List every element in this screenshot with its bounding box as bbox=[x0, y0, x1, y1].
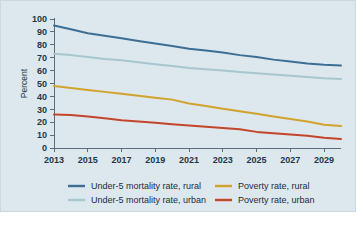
legend-label: Under-5 mortality rate, urban bbox=[91, 195, 206, 205]
y-tick-label: 100 bbox=[32, 14, 47, 24]
y-tick-labels: 0102030405060708090100 bbox=[32, 14, 47, 153]
x-tick-label: 2013 bbox=[44, 155, 64, 165]
y-tick-label: 30 bbox=[37, 105, 47, 115]
x-tick-marks bbox=[54, 148, 324, 152]
series-line bbox=[54, 54, 341, 79]
x-tick-label: 2023 bbox=[213, 155, 233, 165]
series-lines bbox=[54, 25, 341, 139]
y-tick-label: 70 bbox=[37, 53, 47, 63]
legend-label: Under-5 mortality rate, rural bbox=[91, 181, 201, 191]
x-tick-labels: 201320152017201920212023202520272029 bbox=[44, 155, 334, 165]
legend-label: Poverty rate, rural bbox=[238, 181, 310, 191]
y-axis-group: 0102030405060708090100 Percent bbox=[19, 14, 54, 153]
x-tick-label: 2021 bbox=[179, 155, 199, 165]
y-tick-label: 20 bbox=[37, 117, 47, 127]
y-tick-label: 80 bbox=[37, 40, 47, 50]
x-tick-label: 2029 bbox=[314, 155, 334, 165]
y-tick-label: 50 bbox=[37, 79, 47, 89]
y-tick-label: 10 bbox=[37, 130, 47, 140]
y-tick-label: 90 bbox=[37, 27, 47, 37]
y-tick-label: 40 bbox=[37, 92, 47, 102]
x-tick-label: 2027 bbox=[280, 155, 300, 165]
legend-item: Under-5 mortality rate, urban bbox=[68, 195, 206, 205]
legend-item: Under-5 mortality rate, rural bbox=[68, 181, 201, 191]
series-line bbox=[54, 114, 341, 139]
legend-label: Poverty rate, urban bbox=[238, 195, 315, 205]
y-tick-label: 0 bbox=[42, 143, 47, 153]
chart-figure: 0102030405060708090100 Percent 201320152… bbox=[0, 0, 356, 226]
y-tick-label: 60 bbox=[37, 66, 47, 76]
x-tick-label: 2019 bbox=[145, 155, 165, 165]
series-line bbox=[54, 86, 341, 126]
y-tick-marks bbox=[50, 19, 54, 148]
legend-item: Poverty rate, rural bbox=[215, 181, 310, 191]
x-tick-label: 2015 bbox=[78, 155, 98, 165]
y-axis-title: Percent bbox=[19, 68, 29, 98]
x-tick-label: 2017 bbox=[112, 155, 132, 165]
legend-item: Poverty rate, urban bbox=[215, 195, 315, 205]
x-tick-label: 2025 bbox=[247, 155, 267, 165]
series-line bbox=[54, 25, 341, 65]
chart-legend: Under-5 mortality rate, ruralPoverty rat… bbox=[68, 181, 315, 205]
line-chart: 0102030405060708090100 Percent 201320152… bbox=[0, 0, 356, 226]
x-axis-group: 201320152017201920212023202520272029 bbox=[44, 148, 341, 165]
